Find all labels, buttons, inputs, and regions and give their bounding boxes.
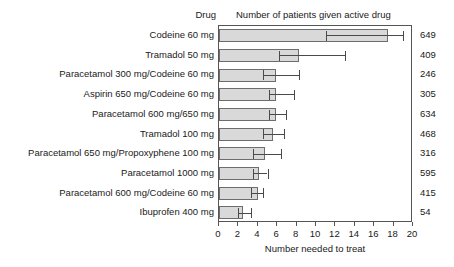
y-axis-label: Paracetamol 600 mg/Codeine 60 mg xyxy=(4,183,214,203)
error-bar-cap-high xyxy=(294,90,295,100)
error-bar-cap-high xyxy=(268,169,269,179)
y-axis-label: Paracetamol 600 mg/650 mg xyxy=(4,104,214,124)
error-bar-cap-high xyxy=(281,149,282,159)
error-bar-cap-low xyxy=(253,169,254,179)
x-axis-tick xyxy=(237,222,238,226)
y-axis-label: Tramadol 100 mg xyxy=(4,124,214,144)
error-bar-cap-high xyxy=(284,129,285,139)
error-bar-cap-low xyxy=(251,188,252,198)
error-bar-cap-high xyxy=(403,31,404,41)
error-bar-cap-high xyxy=(299,70,300,80)
x-axis-tick xyxy=(257,222,258,226)
error-bar-line xyxy=(253,154,281,155)
plot-area xyxy=(218,25,412,222)
error-bar-cap-low xyxy=(279,51,280,61)
patient-count-value: 54 xyxy=(420,202,431,222)
error-bar-line xyxy=(269,114,285,115)
error-bar-line xyxy=(253,173,268,174)
y-axis-label: Paracetamol 1000 mg xyxy=(4,163,214,183)
error-bar-line xyxy=(251,193,263,194)
chart-row xyxy=(219,203,411,223)
x-axis-tick-label: 6 xyxy=(274,228,279,239)
chart-row xyxy=(219,125,411,145)
x-axis-tick-label: 18 xyxy=(387,228,398,239)
patient-count-value: 595 xyxy=(420,163,436,183)
x-axis-tick xyxy=(218,222,219,226)
chart-row xyxy=(219,184,411,204)
patient-count-value: 634 xyxy=(420,104,436,124)
patient-count-value: 305 xyxy=(420,84,436,104)
patient-count-value: 316 xyxy=(420,143,436,163)
chart-row xyxy=(219,26,411,46)
patient-count-value: 409 xyxy=(420,45,436,65)
error-bar-cap-low xyxy=(269,110,270,120)
error-bar-cap-high xyxy=(263,188,264,198)
error-bar-line xyxy=(326,35,404,36)
patient-count-value: 649 xyxy=(420,25,436,45)
y-axis-label: Paracetamol 300 mg/Codeine 60 mg xyxy=(4,64,214,84)
error-bar-line xyxy=(263,134,284,135)
x-axis-tick xyxy=(334,222,335,226)
x-axis-tick-label: 14 xyxy=(349,228,360,239)
x-axis-tick-label: 20 xyxy=(407,228,418,239)
patient-count-value: 246 xyxy=(420,64,436,84)
x-axis-title: Number needed to treat xyxy=(218,243,412,254)
bar xyxy=(219,108,276,121)
x-axis-tick xyxy=(393,222,394,226)
error-bar-cap-high xyxy=(345,51,346,61)
error-bar-cap-low xyxy=(326,31,327,41)
y-axis-label: Codeine 60 mg xyxy=(4,25,214,45)
patients-column-header: Number of patients given active drug xyxy=(236,9,391,20)
x-axis-tick xyxy=(412,222,413,226)
drug-column-header: Drug xyxy=(160,9,216,20)
x-axis-tick xyxy=(296,222,297,226)
y-axis-label: Tramadol 50 mg xyxy=(4,45,214,65)
y-axis-label: Ibuprofen 400 mg xyxy=(4,202,214,222)
error-bar-line xyxy=(238,213,251,214)
y-axis-label: Paracetamol 650 mg/Propoxyphene 100 mg xyxy=(4,143,214,163)
error-bar-line xyxy=(269,94,293,95)
x-axis-tick xyxy=(315,222,316,226)
error-bar-cap-low xyxy=(238,208,239,218)
x-axis-tick-label: 16 xyxy=(368,228,379,239)
bar xyxy=(219,88,276,101)
x-axis-tick xyxy=(354,222,355,226)
error-bar-cap-low xyxy=(253,149,254,159)
x-axis-tick-label: 0 xyxy=(215,228,220,239)
error-bar-line xyxy=(279,55,345,56)
patient-count-value: 468 xyxy=(420,124,436,144)
chart-row xyxy=(219,65,411,85)
error-bar-cap-low xyxy=(263,129,264,139)
x-axis-tick-label: 12 xyxy=(329,228,340,239)
chart-row xyxy=(219,105,411,125)
chart-row xyxy=(219,46,411,66)
patient-count-value: 415 xyxy=(420,183,436,203)
x-axis-tick-label: 4 xyxy=(254,228,259,239)
error-bar-cap-high xyxy=(286,110,287,120)
x-axis-tick xyxy=(373,222,374,226)
x-axis-tick-label: 2 xyxy=(235,228,240,239)
chart-row xyxy=(219,144,411,164)
y-axis-label: Aspirin 650 mg/Codeine 60 mg xyxy=(4,84,214,104)
error-bar-cap-low xyxy=(263,70,264,80)
x-axis-tick-label: 10 xyxy=(310,228,321,239)
error-bar-cap-low xyxy=(269,90,270,100)
chart-row xyxy=(219,164,411,184)
error-bar-line xyxy=(263,75,299,76)
nnt-bar-chart-figure: Drug Number of patients given active dru… xyxy=(0,0,454,267)
x-axis-tick-label: 8 xyxy=(293,228,298,239)
x-axis-tick xyxy=(276,222,277,226)
chart-row xyxy=(219,85,411,105)
error-bar-cap-high xyxy=(251,208,252,218)
